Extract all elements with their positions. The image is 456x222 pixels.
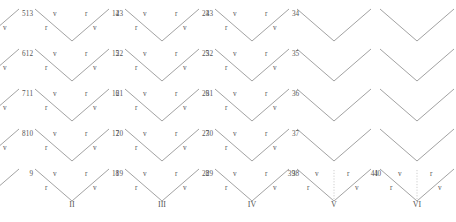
edge-label-bottom-right: v: [93, 105, 97, 112]
edge-label-bottom-right: v: [273, 105, 277, 112]
edge-label-top-right: r: [85, 51, 87, 58]
v-cell: 45vrrv: [0, 8, 20, 46]
edge-label-top-right: r: [175, 91, 177, 98]
edge-label-top-right: r: [430, 171, 432, 178]
v-right-edge: [162, 9, 199, 41]
v-cell: [296, 128, 372, 166]
node-number-left: 32: [204, 51, 213, 58]
node-number-left: 39: [286, 171, 295, 178]
v-left-edge: [380, 9, 417, 41]
edge-label-bottom-left: r: [225, 145, 227, 152]
v-right-edge: [417, 9, 454, 41]
v-cell: 3136vrrv: [214, 88, 290, 126]
edge-label-top-right: r: [265, 91, 267, 98]
edge-label-top-right: r: [265, 131, 267, 138]
v-shape: [379, 88, 455, 126]
v-right-edge: [417, 89, 454, 121]
edge-label-bottom-left: r: [225, 25, 227, 32]
edge-label-top-left: v: [315, 171, 319, 178]
edge-label-top-left: v: [233, 131, 237, 138]
edge-label-bottom-right: v: [93, 25, 97, 32]
v-right-edge: [72, 49, 109, 81]
v-left-edge: [380, 49, 417, 81]
v-cell: 1314vrrv: [34, 8, 110, 46]
node-number-left: 23: [114, 11, 123, 18]
v-cell: [296, 88, 372, 126]
v-shape: [379, 48, 455, 86]
v-cell: [296, 48, 372, 86]
edge-label-bottom-left: r: [135, 145, 137, 152]
v-left-edge: [297, 89, 334, 121]
edge-label-bottom-left: r: [135, 105, 137, 112]
node-number-left: 29: [204, 171, 213, 178]
edge-label-top-right: r: [265, 51, 267, 58]
edge-label-top-left: v: [233, 51, 237, 58]
edge-label-bottom-right: v: [273, 185, 277, 192]
v-right-edge: [162, 169, 199, 201]
edge-label-top-right: r: [85, 91, 87, 98]
edge-label-bottom-right: v: [355, 185, 359, 192]
v-right-edge: [252, 89, 289, 121]
v-cell: [379, 48, 455, 86]
column-label: I: [0, 200, 20, 209]
v-cell: 3037vrrv: [214, 128, 290, 166]
edge-label-top-right: r: [175, 171, 177, 178]
v-cell: 36vrrv: [0, 48, 20, 86]
v-right-edge: [162, 89, 199, 121]
edge-label-top-left: v: [53, 11, 57, 18]
edge-label-top-right: r: [175, 51, 177, 58]
v-cell: [379, 8, 455, 46]
v-right-edge: [334, 89, 371, 121]
v-cell: 3235vrrv: [214, 48, 290, 86]
column-label: VI: [379, 200, 455, 209]
v-cell: 1215vrrv: [34, 48, 110, 86]
edge-label-top-left: v: [53, 51, 57, 58]
edge-label-bottom-left: r: [135, 185, 137, 192]
node-number-left: 21: [114, 91, 123, 98]
edge-label-bottom-right: v: [183, 145, 187, 152]
edge-label-top-right: r: [265, 171, 267, 178]
v-diagram-figure: 45vrrv36vrrv27vrrv18vrrvI1314vrrv1215vrr…: [0, 0, 456, 222]
edge-label-top-right: r: [347, 171, 349, 178]
v-cell: [296, 8, 372, 46]
node-number-left: 31: [204, 91, 213, 98]
edge-label-top-right: r: [85, 11, 87, 18]
v-right-edge: [252, 169, 289, 201]
edge-label-top-left: v: [233, 91, 237, 98]
v-cell: 3334vrrv: [214, 8, 290, 46]
node-number-left: 12: [24, 51, 33, 58]
edge-label-bottom-right: v: [438, 185, 442, 192]
v-shape: [379, 128, 455, 166]
column-label: V: [296, 200, 372, 209]
edge-label-bottom-right: v: [273, 145, 277, 152]
v-cell: 2027vrrv: [124, 128, 200, 166]
edge-label-top-left: v: [53, 171, 57, 178]
node-number-left: 30: [204, 131, 213, 138]
v-right-edge: [72, 169, 109, 201]
edge-label-bottom-right: v: [93, 65, 97, 72]
edge-label-top-right: r: [175, 11, 177, 18]
edge-label-top-left: v: [143, 91, 147, 98]
v-right-edge: [417, 169, 454, 201]
v-shape: [296, 128, 372, 166]
v-right-edge: [162, 49, 199, 81]
edge-label-top-right: r: [85, 131, 87, 138]
edge-label-top-left: v: [233, 11, 237, 18]
v-left-edge: [380, 129, 417, 161]
edge-label-bottom-left: r: [45, 25, 47, 32]
v-shape: [296, 88, 372, 126]
v-cell: 2324vrrv: [124, 8, 200, 46]
v-right-edge: [72, 9, 109, 41]
v-right-edge: [417, 49, 454, 81]
edge-label-bottom-right: v: [183, 185, 187, 192]
v-right-edge: [417, 129, 454, 161]
edge-label-top-right: r: [175, 131, 177, 138]
v-right-edge: [0, 169, 19, 201]
edge-label-bottom-left: r: [135, 65, 137, 72]
v-cell: 1116vrrv: [34, 88, 110, 126]
node-number-left: 10: [24, 131, 33, 138]
v-cell: 2225vrrv: [124, 48, 200, 86]
v-left-edge: [297, 129, 334, 161]
v-shape: [296, 8, 372, 46]
v-cell: 27vrrv: [0, 88, 20, 126]
